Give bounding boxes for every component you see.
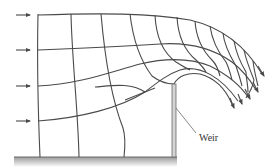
equipotential-2 — [71, 14, 79, 157]
weir-plate — [172, 84, 176, 157]
equipotential-4 — [130, 14, 174, 84]
outflow-arrows — [230, 66, 264, 108]
streamline-5 — [174, 73, 232, 104]
weir-label: Weir — [199, 132, 219, 143]
outflow-arrow-icon — [230, 98, 234, 108]
weir-leader-line — [176, 108, 196, 133]
outflow-arrow-icon — [258, 66, 264, 76]
equipotential-left-1 — [95, 85, 145, 92]
flow-net-diagram: Weir — [0, 0, 276, 168]
equipotential-5 — [155, 15, 190, 70]
streamline-2 — [38, 44, 256, 90]
inflow-arrows — [16, 15, 30, 121]
channel-floor — [14, 157, 177, 167]
weir-label-group: Weir — [176, 108, 219, 143]
outflow-arrow-icon — [238, 94, 242, 104]
